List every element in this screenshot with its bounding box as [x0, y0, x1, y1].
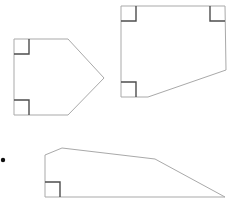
- left-pentagon-outline: [14, 39, 104, 115]
- geometry-figure-canvas: [0, 0, 232, 214]
- bullet-point-marker: [1, 158, 5, 162]
- shape-top-right-pentagon: [121, 6, 226, 97]
- shape-left-pentagon: [14, 39, 104, 115]
- bottom-quadrilateral-outline: [45, 148, 225, 197]
- shape-bottom-quadrilateral: [45, 148, 225, 197]
